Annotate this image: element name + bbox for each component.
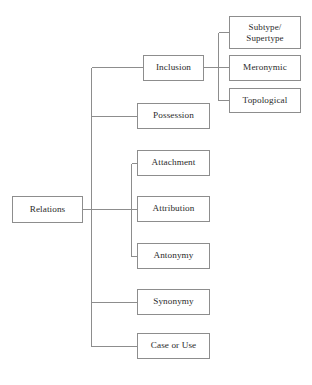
node-possession-label: Possession bbox=[153, 111, 194, 121]
node-possession[interactable]: Possession bbox=[137, 103, 210, 129]
node-synonymy[interactable]: Synonymy bbox=[137, 289, 210, 315]
node-topological[interactable]: Topological bbox=[229, 88, 301, 113]
node-case-or-use-label: Case or Use bbox=[151, 341, 197, 351]
node-attribution-label: Attribution bbox=[153, 204, 195, 214]
node-inclusion-label: Inclusion bbox=[156, 63, 191, 73]
node-case-or-use[interactable]: Case or Use bbox=[137, 333, 210, 359]
node-attachment[interactable]: Attachment bbox=[137, 150, 210, 176]
relations-taxonomy-diagram: Relations Inclusion Possession Attachmen… bbox=[0, 0, 312, 385]
node-relations[interactable]: Relations bbox=[12, 196, 83, 223]
node-antonymy-label: Antonymy bbox=[153, 251, 193, 261]
node-attribution[interactable]: Attribution bbox=[137, 196, 210, 222]
node-inclusion[interactable]: Inclusion bbox=[143, 55, 204, 81]
figure-caption-fragment bbox=[0, 376, 312, 385]
node-meronymic[interactable]: Meronymic bbox=[229, 55, 301, 81]
node-topological-label: Topological bbox=[243, 96, 288, 106]
node-attachment-label: Attachment bbox=[152, 158, 196, 168]
node-antonymy[interactable]: Antonymy bbox=[137, 243, 210, 269]
node-synonymy-label: Synonymy bbox=[153, 297, 194, 307]
node-subtype-supertype[interactable]: Subtype/ Supertype bbox=[229, 16, 301, 49]
node-subtype-supertype-label: Subtype/ Supertype bbox=[246, 22, 283, 44]
node-relations-label: Relations bbox=[30, 205, 66, 215]
node-meronymic-label: Meronymic bbox=[243, 63, 287, 73]
